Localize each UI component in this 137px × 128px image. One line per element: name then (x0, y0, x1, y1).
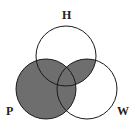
label-h: H (62, 8, 72, 22)
venn-diagram: H P W (0, 0, 137, 128)
label-w: W (117, 104, 129, 118)
label-p: P (6, 104, 13, 118)
